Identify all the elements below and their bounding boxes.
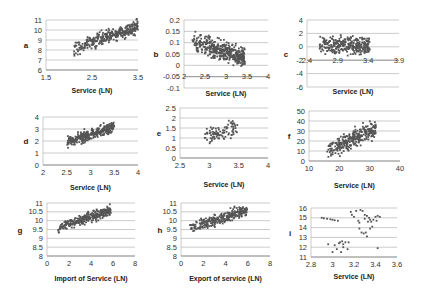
data-point bbox=[370, 123, 372, 125]
x-axis-title: Service (LN) bbox=[204, 181, 245, 189]
data-point bbox=[237, 209, 239, 211]
data-point bbox=[234, 125, 236, 127]
data-point bbox=[377, 247, 379, 249]
data-point bbox=[213, 45, 215, 47]
data-point bbox=[234, 124, 236, 126]
panel-label: f bbox=[288, 132, 291, 141]
data-point bbox=[375, 126, 377, 128]
data-point bbox=[227, 57, 229, 59]
data-point bbox=[74, 219, 76, 221]
data-point bbox=[224, 221, 226, 223]
data-point bbox=[190, 228, 192, 230]
data-point bbox=[96, 135, 98, 137]
data-point bbox=[374, 132, 376, 134]
data-point bbox=[102, 36, 104, 38]
data-point bbox=[244, 208, 246, 210]
data-point bbox=[331, 48, 333, 50]
data-point bbox=[344, 145, 346, 147]
data-point bbox=[82, 142, 84, 144]
data-point bbox=[81, 138, 83, 140]
data-point bbox=[376, 220, 378, 222]
data-point bbox=[206, 224, 208, 226]
data-point bbox=[241, 215, 243, 217]
data-point bbox=[350, 53, 352, 55]
data-point bbox=[218, 138, 220, 140]
data-point bbox=[227, 219, 229, 221]
data-point bbox=[241, 50, 243, 52]
data-point bbox=[206, 47, 208, 49]
data-point bbox=[211, 138, 213, 140]
data-point bbox=[219, 131, 221, 133]
x-tick-label: 20 bbox=[335, 164, 343, 173]
data-point bbox=[334, 146, 336, 148]
data-point bbox=[246, 211, 248, 213]
data-point bbox=[198, 37, 200, 39]
y-tick-label: -4 bbox=[296, 69, 303, 78]
data-point bbox=[211, 128, 213, 130]
data-point bbox=[352, 140, 354, 142]
data-point bbox=[89, 39, 91, 41]
data-point bbox=[219, 58, 221, 60]
y-tick-label: -6 bbox=[296, 83, 303, 92]
data-point bbox=[209, 43, 211, 45]
data-point bbox=[206, 221, 208, 223]
x-axis-title: Service (LN) bbox=[333, 88, 374, 96]
data-point bbox=[230, 52, 232, 54]
data-point bbox=[366, 133, 368, 135]
data-point bbox=[111, 131, 113, 133]
data-point bbox=[359, 131, 361, 133]
data-point bbox=[72, 137, 74, 139]
data-point bbox=[346, 146, 348, 148]
data-point bbox=[109, 35, 111, 37]
data-point bbox=[68, 225, 70, 227]
data-point bbox=[102, 131, 104, 133]
data-point bbox=[192, 40, 194, 42]
data-point bbox=[365, 134, 367, 136]
data-point bbox=[79, 222, 81, 224]
data-point bbox=[359, 37, 361, 39]
data-point bbox=[222, 223, 224, 225]
data-point bbox=[340, 36, 342, 38]
data-point bbox=[355, 131, 357, 133]
x-axis-title: Service (LN) bbox=[334, 182, 375, 190]
data-point bbox=[83, 128, 85, 130]
data-point bbox=[97, 210, 99, 212]
y-tick-label: 10 bbox=[169, 216, 177, 225]
data-point bbox=[193, 230, 195, 232]
x-axis-title: Export of service (LN) bbox=[189, 275, 262, 283]
data-point bbox=[109, 203, 111, 205]
data-point bbox=[200, 228, 202, 230]
data-point bbox=[77, 137, 79, 139]
x-tick-label: 4 bbox=[89, 259, 93, 268]
data-point bbox=[360, 145, 362, 147]
data-point bbox=[327, 156, 329, 158]
data-point bbox=[202, 219, 204, 221]
data-point bbox=[100, 209, 102, 211]
data-point bbox=[68, 138, 70, 140]
data-point bbox=[93, 40, 95, 42]
data-point bbox=[236, 124, 238, 126]
data-point bbox=[116, 40, 118, 42]
data-point bbox=[364, 139, 366, 141]
y-tick-label: 2.5 bbox=[166, 104, 176, 113]
data-point bbox=[366, 40, 368, 42]
data-point bbox=[74, 46, 76, 48]
data-point bbox=[96, 221, 98, 223]
data-point bbox=[228, 132, 230, 134]
y-tick-label: 40 bbox=[297, 117, 305, 126]
data-point bbox=[214, 133, 216, 135]
data-point bbox=[79, 224, 81, 226]
data-point bbox=[328, 47, 330, 49]
panel-d: 0123422.533.54dService (LN) bbox=[24, 113, 141, 193]
y-tick-label: 30 bbox=[297, 127, 305, 136]
data-point bbox=[73, 221, 75, 223]
data-point bbox=[356, 145, 358, 147]
data-point bbox=[223, 214, 225, 216]
data-point bbox=[119, 30, 121, 32]
data-point bbox=[121, 32, 123, 34]
data-point bbox=[242, 60, 244, 62]
data-point bbox=[379, 216, 381, 218]
x-axis-title: Import of Service (LN) bbox=[54, 275, 127, 283]
data-point bbox=[338, 44, 340, 46]
x-axis-title: Service (LN) bbox=[72, 87, 113, 95]
